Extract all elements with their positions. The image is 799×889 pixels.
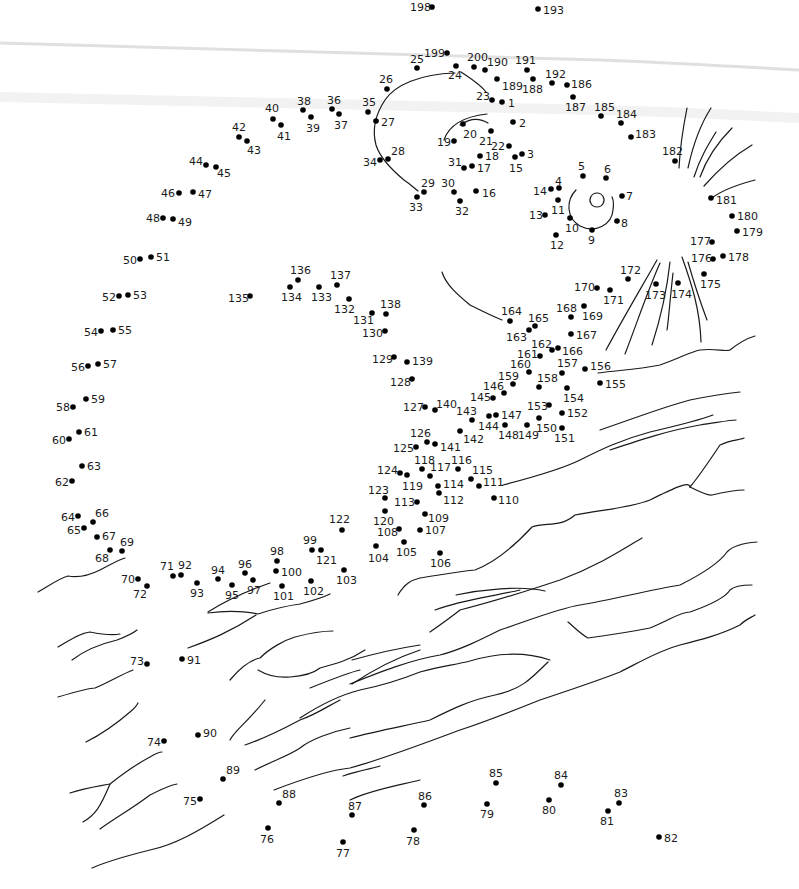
dot-marker[interactable] <box>542 212 548 218</box>
dot-marker[interactable] <box>318 547 324 553</box>
dot-marker[interactable] <box>384 86 390 92</box>
dot-86[interactable]: 86 <box>418 790 432 808</box>
dot-156[interactable]: 156 <box>582 360 611 373</box>
dot-marker[interactable] <box>69 478 75 484</box>
dot-marker[interactable] <box>559 410 565 416</box>
dot-marker[interactable] <box>377 157 383 163</box>
dot-marker[interactable] <box>625 276 631 282</box>
dot-167[interactable]: 167 <box>568 329 597 342</box>
dot-45[interactable]: 45 <box>213 164 231 180</box>
dot-15[interactable]: 15 <box>509 154 523 175</box>
dot-marker[interactable] <box>555 345 561 351</box>
dot-141[interactable]: 141 <box>432 441 461 454</box>
dot-marker[interactable] <box>619 193 625 199</box>
dot-marker[interactable] <box>559 425 565 431</box>
dot-marker[interactable] <box>567 215 573 221</box>
dot-marker[interactable] <box>250 577 256 583</box>
dot-199[interactable]: 199 <box>424 47 450 60</box>
dot-marker[interactable] <box>568 331 574 337</box>
dot-marker[interactable] <box>451 189 457 195</box>
dot-200[interactable]: 200 <box>467 51 488 70</box>
dot-marker[interactable] <box>203 162 209 168</box>
dot-178[interactable]: 178 <box>720 251 749 264</box>
dot-154[interactable]: 154 <box>563 385 584 405</box>
dot-marker[interactable] <box>170 216 176 222</box>
dot-44[interactable]: 44 <box>189 155 209 168</box>
dot-marker[interactable] <box>334 282 340 288</box>
dot-33[interactable]: 33 <box>409 194 423 214</box>
dot-marker[interactable] <box>618 120 624 126</box>
dot-marker[interactable] <box>488 128 494 134</box>
dot-128[interactable]: 128 <box>390 376 415 389</box>
dot-99[interactable]: 99 <box>303 534 317 553</box>
dot-marker[interactable] <box>672 158 678 164</box>
dot-marker[interactable] <box>373 118 379 124</box>
dot-101[interactable]: 101 <box>273 583 294 603</box>
dot-112[interactable]: 112 <box>436 490 464 507</box>
dot-marker[interactable] <box>229 582 235 588</box>
dot-marker[interactable] <box>477 153 483 159</box>
dot-marker[interactable] <box>469 163 475 169</box>
dot-79[interactable]: 79 <box>480 801 494 821</box>
dot-153[interactable]: 153 <box>527 400 552 413</box>
dot-10[interactable]: 10 <box>565 215 579 235</box>
dot-marker[interactable] <box>197 796 203 802</box>
dot-81[interactable]: 81 <box>600 808 614 828</box>
dot-marker[interactable] <box>385 156 391 162</box>
dot-14[interactable]: 14 <box>533 185 554 198</box>
dot-marker[interactable] <box>535 6 541 12</box>
dot-marker[interactable] <box>94 534 100 540</box>
dot-marker[interactable] <box>270 116 276 122</box>
dot-97[interactable]: 97 <box>247 577 261 597</box>
dot-marker[interactable] <box>455 466 461 472</box>
dot-marker[interactable] <box>558 782 564 788</box>
dot-78[interactable]: 78 <box>406 827 420 848</box>
dot-8[interactable]: 8 <box>614 217 628 230</box>
dot-181[interactable]: 181 <box>708 194 737 207</box>
dot-9[interactable]: 9 <box>588 227 595 247</box>
dot-74[interactable]: 74 <box>147 736 167 749</box>
dot-marker[interactable] <box>510 119 516 125</box>
dot-170[interactable]: 170 <box>574 281 600 294</box>
dot-122[interactable]: 122 <box>329 513 350 533</box>
dot-marker[interactable] <box>568 314 574 320</box>
dot-124[interactable]: 124 <box>377 464 403 477</box>
dot-marker[interactable] <box>512 154 518 160</box>
dot-65[interactable]: 65 <box>67 524 87 537</box>
dot-83[interactable]: 83 <box>614 787 628 806</box>
dot-marker[interactable] <box>274 558 280 564</box>
dot-136[interactable]: 136 <box>290 264 311 283</box>
dot-184[interactable]: 184 <box>616 108 637 126</box>
dot-marker[interactable] <box>135 576 141 582</box>
dot-63[interactable]: 63 <box>79 460 101 473</box>
dot-marker[interactable] <box>537 353 543 359</box>
dot-189[interactable]: 189 <box>494 76 523 93</box>
dot-168[interactable]: 168 <box>556 302 577 320</box>
dot-marker[interactable] <box>549 80 555 86</box>
dot-39[interactable]: 39 <box>306 114 320 135</box>
dot-marker[interactable] <box>137 256 143 262</box>
dot-103[interactable]: 103 <box>336 567 357 587</box>
dot-173[interactable]: 173 <box>645 281 666 302</box>
dot-marker[interactable] <box>499 99 505 105</box>
dot-137[interactable]: 137 <box>330 269 351 288</box>
dot-114[interactable]: 114 <box>435 478 464 491</box>
dot-151[interactable]: 151 <box>554 425 575 445</box>
dot-198[interactable]: 198 <box>410 1 435 14</box>
dot-marker[interactable] <box>435 483 441 489</box>
dot-marker[interactable] <box>66 436 72 442</box>
dot-marker[interactable] <box>279 583 285 589</box>
dot-marker[interactable] <box>437 550 443 556</box>
dot-marker[interactable] <box>70 404 76 410</box>
dot-130[interactable]: 130 <box>362 327 388 340</box>
dot-marker[interactable] <box>383 311 389 317</box>
dot-marker[interactable] <box>453 63 459 69</box>
dot-marker[interactable] <box>598 113 604 119</box>
dot-89[interactable]: 89 <box>220 764 240 782</box>
dot-marker[interactable] <box>417 527 423 533</box>
dot-51[interactable]: 51 <box>148 251 170 264</box>
dot-marker[interactable] <box>179 656 185 662</box>
dot-marker[interactable] <box>473 188 479 194</box>
dot-marker[interactable] <box>401 539 407 545</box>
dot-marker[interactable] <box>276 800 282 806</box>
